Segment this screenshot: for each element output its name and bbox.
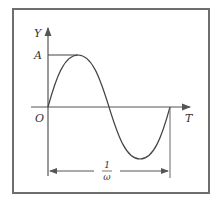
amplitude-label: A: [33, 49, 42, 62]
period-numerator: 1: [104, 160, 110, 170]
y-axis-label: Y: [34, 27, 43, 40]
x-axis-label: T: [185, 112, 194, 125]
origin-label: O: [35, 112, 44, 125]
period-label: 1 ω: [102, 160, 112, 182]
sine-diagram: Y A O T 1 ω: [0, 0, 221, 199]
period-denominator: ω: [103, 172, 111, 182]
